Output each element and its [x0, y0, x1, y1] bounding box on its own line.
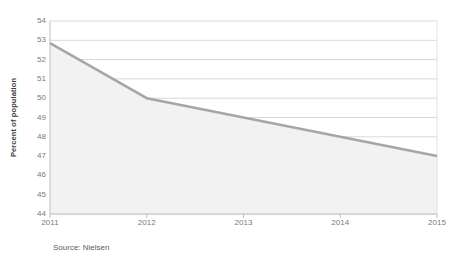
- x-axis-tick-label: 2014: [320, 219, 360, 227]
- x-axis-tick-label: 2011: [30, 219, 70, 227]
- x-axis-tick-label: 2015: [417, 219, 451, 227]
- x-axis-tick-label: 2012: [127, 219, 167, 227]
- x-axis-tick-labels: 20112012201320142015: [0, 219, 451, 233]
- chart-figure: Percent of population 444546474849505152…: [0, 0, 451, 263]
- source-note: Source: Nielsen: [53, 243, 109, 252]
- x-axis-tick-label: 2013: [224, 219, 264, 227]
- area-fill: [50, 43, 437, 214]
